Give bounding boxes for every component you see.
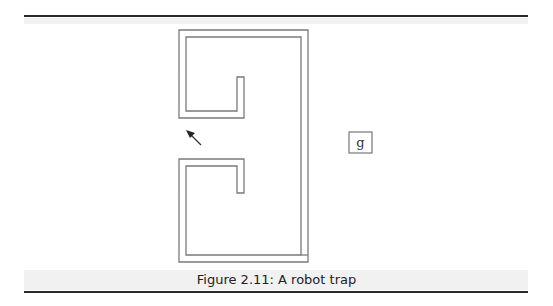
- figure-caption: Figure 2.11: A robot trap: [0, 272, 553, 287]
- robot-arrow-icon: [186, 130, 201, 145]
- goal-label: g: [356, 135, 364, 150]
- bottom-rule: [24, 291, 528, 293]
- robot-trap-diagram: g: [0, 0, 553, 306]
- maze-outer-wall: [179, 30, 308, 262]
